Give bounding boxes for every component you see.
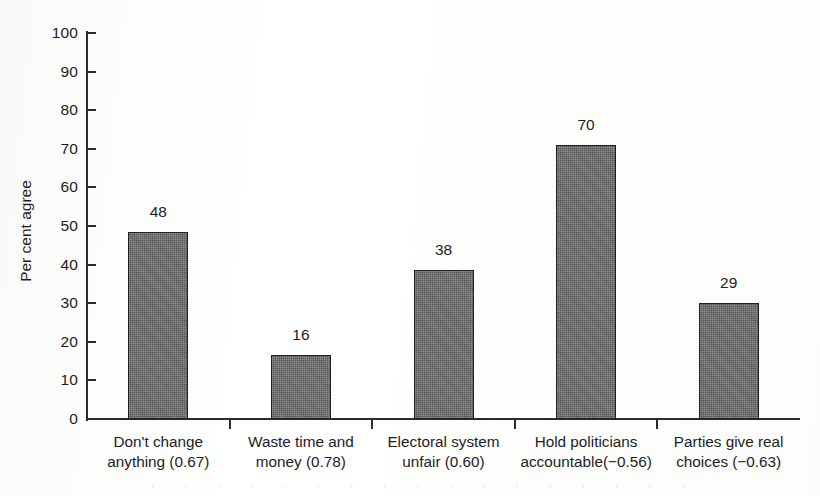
category-label: Electoral systemunfair (0.60) — [368, 432, 519, 472]
category-label-line: choices (−0.63) — [653, 452, 804, 472]
bar-value-label: 29 — [689, 275, 769, 291]
y-tick-mark — [88, 148, 96, 150]
y-tick-label-text: 10 — [36, 372, 78, 388]
y-tick-label: 40 — [26, 257, 78, 273]
category-label-line: Parties give real — [653, 432, 804, 452]
y-tick-label-text: 50 — [36, 218, 78, 234]
x-tick-mark — [656, 420, 658, 429]
bar-value-label: 48 — [118, 204, 198, 220]
y-tick-label-text: 0 — [36, 411, 78, 427]
y-tick-mark — [88, 186, 96, 188]
x-tick-mark — [514, 420, 516, 429]
y-tick-label: 30 — [26, 295, 78, 311]
y-tick-mark — [88, 32, 96, 34]
scan-bleed-artifact: · · · · · · · · · · · · · · · · · · · · … — [150, 476, 710, 494]
y-tick-label: 90 — [26, 64, 78, 80]
y-tick-label: 100 — [26, 25, 78, 41]
y-tick-label-text: 80 — [36, 102, 78, 118]
bar — [271, 355, 331, 419]
y-tick-label-text: 70 — [36, 141, 78, 157]
x-tick-mark — [371, 420, 373, 429]
bar — [699, 303, 759, 419]
bar — [414, 270, 474, 419]
category-label: Hold politiciansaccountable(−0.56) — [511, 432, 662, 472]
category-label-line: anything (0.67) — [83, 452, 234, 472]
category-label-line: Don't change — [83, 432, 234, 452]
y-tick-mark — [88, 109, 96, 111]
bar-value-label: 16 — [261, 327, 341, 343]
category-label-line: money (0.78) — [226, 452, 377, 472]
y-tick-label-text: 90 — [36, 64, 78, 80]
y-tick-mark — [88, 225, 96, 227]
category-label: Parties give realchoices (−0.63) — [653, 432, 804, 472]
category-label-line: unfair (0.60) — [368, 452, 519, 472]
category-label: Don't changeanything (0.67) — [83, 432, 234, 472]
y-tick-label: 10 — [26, 372, 78, 388]
y-tick-mark — [88, 71, 96, 73]
bar-value-label: 70 — [546, 117, 626, 133]
category-label-line: Electoral system — [368, 432, 519, 452]
y-tick-label: 20 — [26, 334, 78, 350]
bar — [556, 145, 616, 419]
y-tick-label-text: 100 — [36, 25, 78, 41]
category-label-line: accountable(−0.56) — [511, 452, 662, 472]
y-tick-mark — [88, 302, 96, 304]
y-tick-label-text: 20 — [36, 334, 78, 350]
y-tick-mark — [88, 418, 96, 420]
y-tick-label: 80 — [26, 102, 78, 118]
y-tick-label-text: 40 — [36, 257, 78, 273]
y-tick-label: 70 — [26, 141, 78, 157]
category-label-line: Waste time and — [226, 432, 377, 452]
y-tick-mark — [88, 264, 96, 266]
y-tick-label: 60 — [26, 179, 78, 195]
y-tick-label-text: 30 — [36, 295, 78, 311]
y-tick-label-text: 60 — [36, 179, 78, 195]
bar-chart-figure: Per cent agree 0102030405060708090100 48… — [0, 0, 820, 496]
bar-value-label: 38 — [404, 242, 484, 258]
category-label-line: Hold politicians — [511, 432, 662, 452]
category-label: Waste time andmoney (0.78) — [226, 432, 377, 472]
x-tick-mark — [229, 420, 231, 429]
y-tick-label: 50 — [26, 218, 78, 234]
y-tick-mark — [88, 341, 96, 343]
y-tick-mark — [88, 379, 96, 381]
bar — [128, 232, 188, 419]
y-tick-label: 0 — [26, 411, 78, 427]
